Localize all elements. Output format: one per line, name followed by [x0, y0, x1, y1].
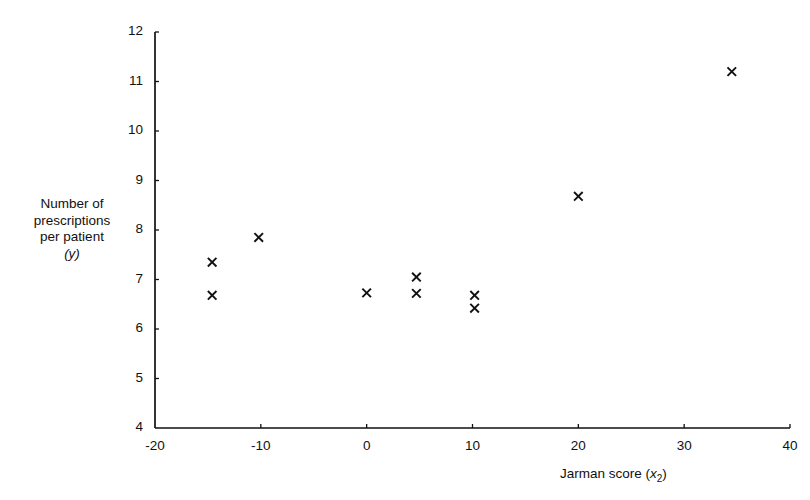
x-axis-tick-label: -10 [238, 438, 284, 453]
data-point-marker [574, 192, 583, 201]
y-axis-tick-label: 11 [113, 73, 143, 88]
y-axis-tick-label: 4 [113, 419, 143, 434]
y-axis-tick-label: 10 [113, 122, 143, 137]
y-axis-tick-label: 9 [113, 172, 143, 187]
y-axis-tick-label: 8 [113, 221, 143, 236]
data-point-marker [362, 289, 371, 298]
y-axis-tick-label: 5 [113, 370, 143, 385]
data-point-marker [727, 67, 736, 76]
x-axis-label-text: Jarman score ( [560, 466, 650, 481]
x-axis-label: Jarman score (x2) [560, 466, 667, 484]
y-axis-tick-label: 7 [113, 271, 143, 286]
data-point-marker [470, 291, 479, 300]
x-axis-label-variable: x [650, 466, 657, 481]
y-axis-label-line-3: per patient [18, 229, 126, 246]
y-axis-label-line-1: Number of [18, 196, 126, 213]
x-axis-tick-label: 0 [344, 438, 390, 453]
y-axis-tick-label: 6 [113, 320, 143, 335]
x-axis-tick-label: 20 [555, 438, 601, 453]
x-axis-tick-label: 40 [767, 438, 810, 453]
data-point-marker [470, 304, 479, 313]
y-axis-label: Number of prescriptions per patient (y) [18, 196, 126, 262]
x-axis-label-close-paren: ) [662, 466, 667, 481]
x-axis-tick-label: -20 [132, 438, 178, 453]
data-point-marker [254, 233, 263, 242]
y-axis-label-variable: (y) [18, 246, 126, 263]
data-point-marker [412, 289, 421, 298]
y-axis-label-line-2: prescriptions [18, 213, 126, 230]
x-axis-tick-label: 10 [450, 438, 496, 453]
data-point-marker [208, 291, 217, 300]
y-axis-tick-label: 12 [113, 23, 143, 38]
data-point-marker [412, 273, 421, 282]
x-axis-tick-label: 30 [661, 438, 707, 453]
data-point-marker [208, 258, 217, 267]
scatter-plot-figure: Number of prescriptions per patient (y) … [0, 0, 810, 500]
